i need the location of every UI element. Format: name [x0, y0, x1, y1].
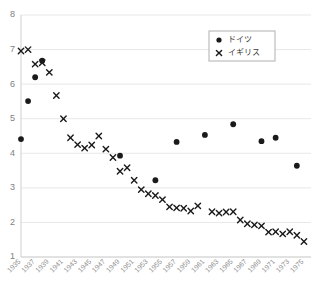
- y-tick-label: 5: [10, 113, 15, 123]
- x-tick-label: 1945: [76, 258, 92, 274]
- chart-container: 12345678 1935193719391941194319451947194…: [0, 0, 322, 292]
- y-tick-label: 8: [10, 9, 15, 19]
- x-tick-label: 1965: [218, 258, 234, 274]
- x-tick-label: 1971: [260, 258, 276, 274]
- x-tick-label: 1975: [289, 258, 305, 274]
- x-tick-label: 1955: [147, 258, 163, 274]
- data-point-dot: [32, 74, 38, 80]
- series-germany: [18, 58, 300, 183]
- legend-label: イギリス: [228, 48, 260, 57]
- data-point-dot: [25, 98, 31, 104]
- x-tick-label: 1973: [275, 258, 291, 274]
- data-point-dot: [18, 136, 24, 142]
- y-tick-label: 7: [10, 44, 15, 54]
- x-tick-label: 1947: [91, 258, 107, 274]
- x-axis-tick-labels: 1935193719391941194319451947194919511953…: [6, 258, 305, 274]
- x-tick-label: 1961: [190, 258, 206, 274]
- data-point-dot: [259, 138, 265, 144]
- x-tick-label: 1941: [48, 258, 64, 274]
- data-point-dot: [117, 153, 123, 159]
- x-tick-label: 1963: [204, 258, 220, 274]
- data-point-dot: [152, 177, 158, 183]
- x-tick-label: 1957: [161, 258, 177, 274]
- scatter-plot: 12345678 1935193719391941194319451947194…: [0, 0, 322, 292]
- x-tick-label: 1967: [232, 258, 248, 274]
- x-tick-label: 1935: [6, 258, 22, 274]
- chart-legend[interactable]: ドイツイギリス: [209, 31, 275, 61]
- x-tick-label: 1943: [62, 258, 78, 274]
- x-tick-label: 1969: [246, 258, 262, 274]
- x-tick-label: 1939: [34, 258, 50, 274]
- data-point-dot: [230, 121, 236, 127]
- data-point-dot: [174, 139, 180, 145]
- x-tick-label: 1949: [105, 258, 121, 274]
- y-tick-label: 4: [10, 148, 15, 158]
- y-tick-label: 2: [10, 217, 15, 227]
- y-tick-label: 3: [10, 182, 15, 192]
- series-uk: [18, 47, 306, 244]
- x-tick-label: 1951: [119, 258, 135, 274]
- x-tick-label: 1959: [175, 258, 191, 274]
- y-tick-label: 6: [10, 79, 15, 89]
- y-axis-tick-labels: 12345678: [10, 9, 15, 261]
- legend-label: ドイツ: [228, 35, 252, 44]
- data-point-dot: [294, 163, 300, 169]
- legend-marker-dot: [216, 37, 221, 42]
- data-point-dot: [202, 132, 208, 138]
- data-point-dot: [273, 135, 279, 141]
- x-tick-label: 1953: [133, 258, 149, 274]
- x-tick-label: 1937: [20, 258, 36, 274]
